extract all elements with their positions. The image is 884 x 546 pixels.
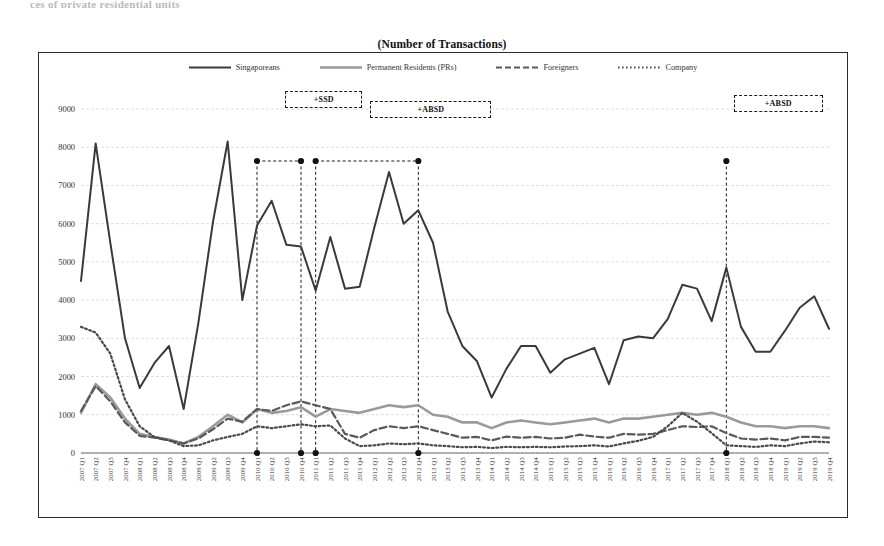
x-tick-label: 2015 Q3 [576,457,584,481]
x-tick-label: 2019 Q3 [811,457,819,481]
x-tick-label: 2017 Q3 [694,457,702,481]
x-tick-label: 2008 Q1 [136,457,144,481]
x-tick-label: 2019 Q2 [796,457,804,481]
y-axis-labels: 0100020003000400050006000700080009000 [39,109,75,453]
x-tick-label: 2007 Q3 [107,457,115,481]
annotation-marker-dot [254,450,260,456]
series-line-permanent-residents-prs [81,384,829,443]
x-tick-label: 2012 Q1 [371,457,379,481]
x-tick-label: 2008 Q2 [151,457,159,481]
x-tick-label: 2011 Q1 [312,457,320,481]
y-tick-label: 1000 [58,410,75,419]
y-tick-label: 3000 [58,334,75,343]
x-tick-label: 2007 Q4 [122,457,130,481]
series-line-singaporeans [81,141,829,409]
x-tick-label: 2016 Q2 [620,457,628,481]
x-tick-label: 2008 Q4 [180,457,188,481]
x-tick-label: 2012 Q4 [415,457,423,481]
dashed-line-swatch [496,63,538,72]
x-tick-label: 2015 Q1 [547,457,555,481]
x-tick-label: 2017 Q4 [708,457,716,481]
x-tick-label: 2011 Q2 [327,457,335,481]
x-tick-label: 2013 Q4 [474,457,482,481]
chart-frame: SingaporeansPermanent Residents (PRs)For… [38,52,848,518]
legend-label: Singaporeans [236,63,280,72]
chart-title: (Number of Transactions) [0,38,884,50]
legend-item-company: Company [618,63,697,72]
x-tick-label: 2013 Q2 [444,457,452,481]
x-tick-label: 2015 Q2 [562,457,570,481]
annotation-box: +SSD [285,91,362,108]
x-tick-label: 2007 Q2 [92,457,100,481]
x-tick-label: 2015 Q4 [591,457,599,481]
annotation-marker-dot [723,158,729,164]
plot-area [81,109,829,453]
series-line-company [81,327,829,448]
x-tick-label: 2016 Q1 [606,457,614,481]
y-tick-label: 8000 [58,143,75,152]
x-tick-label: 2016 Q4 [650,457,658,481]
legend-label: Foreigners [543,63,578,72]
x-tick-label: 2013 Q3 [459,457,467,481]
x-tick-label: 2010 Q4 [298,457,306,481]
legend-item-permanent-residents-prs: Permanent Residents (PRs) [320,63,457,72]
x-tick-label: 2013 Q1 [430,457,438,481]
x-tick-label: 2018 Q2 [738,457,746,481]
annotation-marker-dot [723,450,729,456]
x-tick-label: 2014 Q1 [488,457,496,481]
x-axis-labels: 2007 Q12007 Q22007 Q32007 Q42008 Q12008 … [81,457,829,519]
x-tick-label: 2012 Q2 [386,457,394,481]
x-tick-label: 2018 Q4 [767,457,775,481]
y-tick-label: 4000 [58,296,75,305]
legend-label: Permanent Residents (PRs) [367,63,457,72]
x-tick-label: 2007 Q1 [78,457,86,481]
x-tick-label: 2017 Q2 [679,457,687,481]
series-canvas [81,109,829,453]
annotation-marker-dot [298,450,304,456]
x-tick-label: 2010 Q3 [283,457,291,481]
x-tick-label: 2011 Q3 [342,457,350,481]
x-tick-label: 2012 Q3 [400,457,408,481]
x-tick-label: 2018 Q3 [752,457,760,481]
x-tick-label: 2016 Q3 [635,457,643,481]
cut-off-heading: ces of private residential units [30,0,180,8]
y-tick-label: 0 [71,449,75,458]
x-tick-label: 2009 Q2 [210,457,218,481]
x-tick-label: 2019 Q4 [826,457,834,481]
annotation-box: +ABSD [734,95,823,112]
annotation-marker-dot [313,450,319,456]
y-tick-label: 7000 [58,181,75,190]
x-tick-label: 2014 Q3 [518,457,526,481]
dotted-line-swatch [618,63,660,72]
x-tick-label: 2017 Q1 [664,457,672,481]
x-tick-label: 2019 Q1 [782,457,790,481]
x-tick-label: 2010 Q1 [254,457,262,481]
annotation-marker-dot [415,450,421,456]
x-tick-label: 2011 Q4 [356,457,364,481]
x-tick-label: 2009 Q3 [224,457,232,481]
x-tick-label: 2008 Q3 [166,457,174,481]
legend-item-singaporeans: Singaporeans [189,63,280,72]
legend-label: Company [665,63,697,72]
solid-line-swatch [189,63,231,72]
chart-legend: SingaporeansPermanent Residents (PRs)For… [39,63,847,72]
y-tick-label: 2000 [58,372,75,381]
legend-item-foreigners: Foreigners [496,63,578,72]
y-tick-label: 9000 [58,105,75,114]
annotation-box: +ABSD [370,101,491,118]
x-tick-label: 2009 Q1 [195,457,203,481]
x-tick-label: 2018 Q1 [723,457,731,481]
y-tick-label: 6000 [58,219,75,228]
x-tick-label: 2009 Q4 [239,457,247,481]
x-tick-label: 2014 Q2 [503,457,511,481]
y-tick-label: 5000 [58,257,75,266]
solid-line-swatch [320,63,362,72]
x-tick-label: 2010 Q2 [268,457,276,481]
x-tick-label: 2014 Q4 [532,457,540,481]
